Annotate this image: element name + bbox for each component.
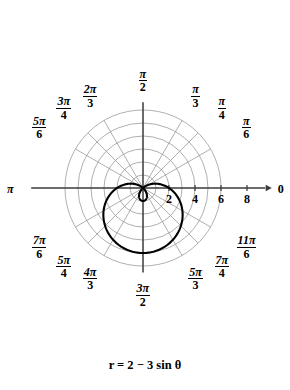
angle-label-five-pi-over-6: 5π6 — [32, 115, 47, 142]
fraction-denominator: 2 — [136, 295, 151, 309]
angle-label-pi-over-6: π6 — [242, 115, 251, 142]
fraction-numerator: 3π — [136, 282, 151, 295]
fraction-pi-over-6: π6 — [242, 115, 251, 141]
fraction-pi-over-4: π4 — [218, 95, 227, 121]
angle-label-pi-over-4: π4 — [218, 95, 227, 122]
angle-label-four-pi-over-3: 4π3 — [83, 266, 98, 293]
angle-label-seven-pi-over-4: 7π4 — [215, 254, 230, 281]
fraction-denominator: 6 — [237, 247, 257, 261]
fraction-numerator: 2π — [83, 83, 98, 96]
fraction-five-pi-over-3: 5π3 — [188, 266, 203, 292]
fraction-denominator: 4 — [56, 108, 71, 122]
fraction-denominator: 3 — [191, 96, 200, 110]
angle-label-pi: π — [7, 180, 14, 196]
fraction-numerator: π — [139, 68, 148, 81]
angle-label-five-pi-over-3: 5π3 — [188, 266, 203, 293]
angle-label-eleven-pi-over-6: 11π6 — [237, 234, 257, 261]
fraction-denominator: 4 — [215, 266, 230, 280]
fraction-denominator: 6 — [32, 127, 47, 141]
angle-label-two-pi-over-3: 2π3 — [83, 83, 98, 110]
fraction-numerator: 7π — [32, 234, 47, 247]
polar-plot-figure: π22π33π45π6π7π65π44π33π25π37π411π6π6π4π3… — [0, 0, 290, 390]
angle-label-pi-over-2: π2 — [139, 68, 148, 95]
angle-label-five-pi-over-4: 5π4 — [56, 254, 71, 281]
fraction-eleven-pi-over-6: 11π6 — [237, 234, 257, 260]
fraction-numerator: 5π — [32, 115, 47, 128]
fraction-denominator: 3 — [188, 278, 203, 292]
fraction-two-pi-over-3: 2π3 — [83, 83, 98, 109]
fraction-denominator: 2 — [139, 80, 148, 94]
angle-label-text: π — [7, 182, 14, 196]
fraction-numerator: 5π — [56, 254, 71, 267]
fraction-numerator: π — [242, 115, 251, 128]
fraction-denominator: 6 — [242, 127, 251, 141]
fraction-denominator: 3 — [83, 278, 98, 292]
radial-tick-label-2: 2 — [159, 192, 179, 207]
fraction-numerator: π — [191, 83, 200, 96]
fraction-four-pi-over-3: 4π3 — [83, 266, 98, 292]
figure-caption: r = 2 − 3 sin θ — [0, 358, 290, 373]
fraction-numerator: 7π — [215, 254, 230, 267]
fraction-five-pi-over-6: 5π6 — [32, 115, 47, 141]
fraction-pi-over-3: π3 — [191, 83, 200, 109]
fraction-seven-pi-over-6: 7π6 — [32, 234, 47, 260]
angle-label-text: 0 — [278, 182, 284, 196]
radial-tick-label-6: 6 — [211, 192, 231, 207]
angle-label-zero: 0 — [278, 180, 284, 196]
fraction-three-pi-over-4: 3π4 — [56, 95, 71, 121]
fraction-denominator: 4 — [56, 266, 71, 280]
fraction-numerator: 4π — [83, 266, 98, 279]
fraction-numerator: 11π — [237, 234, 257, 247]
fraction-numerator: π — [218, 95, 227, 108]
fraction-denominator: 4 — [218, 108, 227, 122]
angle-label-three-pi-over-4: 3π4 — [56, 95, 71, 122]
radial-tick-label-8: 8 — [237, 192, 257, 207]
fraction-denominator: 6 — [32, 247, 47, 261]
fraction-numerator: 3π — [56, 95, 71, 108]
angle-label-seven-pi-over-6: 7π6 — [32, 234, 47, 261]
fraction-seven-pi-over-4: 7π4 — [215, 254, 230, 280]
fraction-five-pi-over-4: 5π4 — [56, 254, 71, 280]
radial-tick-label-4: 4 — [185, 192, 205, 207]
fraction-denominator: 3 — [83, 96, 98, 110]
fraction-three-pi-over-2: 3π2 — [136, 282, 151, 308]
angle-label-three-pi-over-2: 3π2 — [136, 282, 151, 309]
fraction-pi-over-2: π2 — [139, 68, 148, 94]
fraction-numerator: 5π — [188, 266, 203, 279]
angle-label-pi-over-3: π3 — [191, 83, 200, 110]
